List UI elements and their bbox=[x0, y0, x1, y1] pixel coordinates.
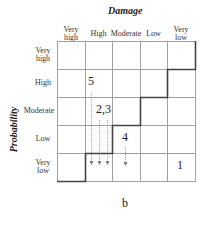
caption: b bbox=[122, 196, 128, 211]
marker-5: 5 bbox=[88, 74, 94, 89]
grid-lines bbox=[57, 41, 196, 182]
risk-boundary-staircase bbox=[57, 41, 196, 182]
marker-4: 4 bbox=[122, 130, 128, 145]
arrow-heads bbox=[90, 161, 128, 166]
marker-2-3: 2,3 bbox=[96, 102, 111, 117]
marker-1: 1 bbox=[177, 158, 183, 173]
